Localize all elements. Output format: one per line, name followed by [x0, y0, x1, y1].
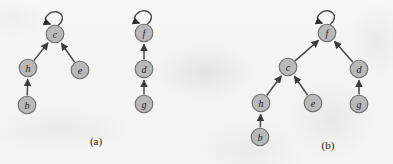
graph-diagram: chebfdgfcdhegb (a)(b) — [0, 0, 393, 164]
graph-edge — [294, 76, 307, 95]
graph-edge — [334, 41, 352, 62]
node-label: e — [78, 65, 83, 76]
node-label: e — [311, 98, 316, 109]
graph-edge — [295, 40, 318, 60]
graph-node[interactable]: d — [350, 60, 368, 78]
self-loops-layer — [46, 11, 335, 26]
graph-node[interactable]: g — [350, 95, 368, 113]
edges-layer — [27, 40, 359, 127]
self-loop-edge — [46, 12, 63, 26]
graph-node[interactable]: f — [135, 24, 153, 42]
graph-node[interactable]: b — [251, 128, 269, 146]
node-label: c — [286, 62, 291, 73]
graph-node[interactable]: c — [279, 58, 297, 76]
graph-edge — [61, 43, 74, 62]
graph-node[interactable]: d — [135, 60, 153, 78]
graph-node[interactable]: e — [304, 94, 322, 112]
node-label: b — [25, 100, 30, 111]
graph-edge — [267, 76, 282, 96]
node-label: g — [142, 99, 147, 110]
node-label: c — [53, 29, 58, 40]
graph-node[interactable]: c — [46, 25, 64, 43]
graph-node[interactable]: h — [252, 94, 270, 112]
graph-node[interactable]: f — [318, 24, 336, 42]
graph-node[interactable]: b — [18, 96, 36, 114]
node-label: b — [258, 132, 263, 143]
panel-caption: (b) — [322, 139, 335, 152]
panel-caption: (a) — [90, 135, 103, 148]
self-loop-edge — [318, 11, 335, 25]
graph-node[interactable]: e — [71, 61, 89, 79]
panel-captions-layer: (a)(b) — [90, 135, 335, 152]
node-label: h — [259, 98, 264, 109]
node-label: h — [26, 63, 31, 74]
self-loop-edge — [135, 11, 152, 25]
node-label: g — [357, 99, 362, 110]
figure-canvas: chebfdgfcdhegb (a)(b) — [0, 0, 393, 164]
graph-edge — [34, 43, 48, 61]
graph-node[interactable]: g — [135, 95, 153, 113]
graph-node[interactable]: h — [19, 59, 37, 77]
